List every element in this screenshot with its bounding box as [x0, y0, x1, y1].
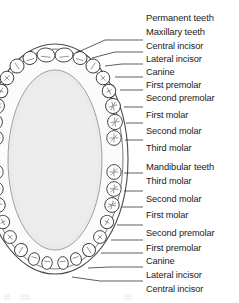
- cropped-caption-artifact: [4, 294, 154, 300]
- label-man-second-premolar: Second premolar: [146, 228, 214, 238]
- label-max-second-premolar: Second premolar: [146, 93, 214, 103]
- label-max-second-molar: Second molar: [146, 126, 202, 136]
- leader-man-lateral-incisor: [88, 267, 143, 268]
- label-max-first-premolar: First premolar: [146, 80, 201, 90]
- label-man-central-incisor: Central incisor: [146, 284, 203, 294]
- label-man-second-molar: Second molar: [146, 194, 202, 204]
- label-max-lateral-incisor: Lateral incisor: [146, 54, 202, 64]
- label-maxillary-teeth: Maxillary teeth: [146, 27, 205, 37]
- leader-max-lateral-incisor: [92, 52, 143, 58]
- leader-man-central-incisor: [72, 277, 143, 281]
- label-man-first-premolar: First premolar: [146, 243, 201, 253]
- leader-max-canine: [105, 64, 143, 66]
- label-max-first-molar: First molar: [146, 110, 188, 120]
- label-max-canine: Canine: [146, 67, 175, 77]
- label-permanent-teeth: Permanent teeth: [146, 13, 214, 23]
- leader-max-central-incisor: [76, 40, 143, 53]
- label-mandibular-teeth: Mandibular teeth: [146, 162, 214, 172]
- palate-inner-shadow: [12, 74, 98, 246]
- label-max-central-incisor: Central incisor: [146, 41, 203, 51]
- dental-arch-figure: Permanent teethMaxillary teethCentral in…: [0, 0, 239, 303]
- label-man-first-molar: First molar: [146, 210, 188, 220]
- label-man-third-molar: Third molar: [146, 176, 191, 186]
- label-man-lateral-incisor: Lateral incisor: [146, 270, 202, 280]
- label-man-canine: Canine: [146, 256, 175, 266]
- tooth-man-r-third-molar: [107, 165, 121, 180]
- tooth-max-r-third-molar: [107, 131, 121, 146]
- label-max-third-molar: Third molar: [146, 143, 191, 153]
